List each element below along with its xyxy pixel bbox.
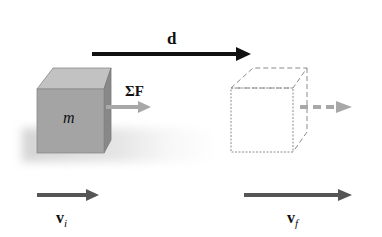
initial-velocity-label: vi	[56, 210, 67, 229]
net-force-label: ΣF	[125, 84, 144, 99]
initial-velocity-symbol: v	[56, 209, 64, 226]
final-velocity-arrow	[244, 189, 352, 201]
initial-velocity-subscript: i	[64, 217, 67, 229]
net-force-arrow	[106, 101, 151, 113]
diagram-canvas: d ΣF m vi vf	[0, 0, 382, 237]
initial-velocity-arrow	[37, 189, 99, 201]
final-force-arrow	[300, 101, 352, 113]
final-velocity-subscript: f	[295, 217, 298, 229]
displacement-arrow	[92, 47, 251, 61]
displacement-label: d	[167, 30, 176, 47]
block-top-face	[37, 68, 111, 89]
block-final	[231, 68, 307, 152]
mass-label: m	[63, 110, 75, 126]
diagram-svg	[0, 0, 382, 237]
final-velocity-symbol: v	[287, 209, 295, 226]
final-velocity-label: vf	[287, 210, 298, 229]
